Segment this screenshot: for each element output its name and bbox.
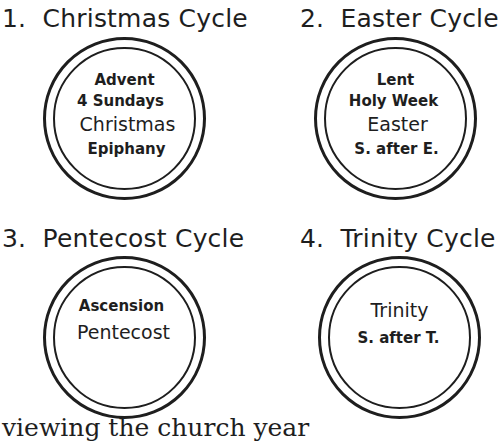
cycle-2-outer-circle: Lent Holy Week Easter S. after E. xyxy=(314,37,477,200)
cycle-1-item: Epiphany xyxy=(50,140,203,158)
cycle-4-number: 4. xyxy=(300,224,324,253)
cycle-1-outer-circle: Advent 4 Sundays Christmas Epiphany xyxy=(43,37,206,200)
cycle-1-item: Advent xyxy=(46,71,203,89)
cycle-2-name: Easter Cycle xyxy=(341,4,499,33)
cycle-1-number: 1. xyxy=(2,4,26,33)
cycle-3-outer-circle: Ascension Pentecost xyxy=(43,256,206,419)
cycle-3-name: Pentecost Cycle xyxy=(43,224,245,253)
cycle-3-item: Pentecost xyxy=(44,321,203,343)
cycle-3-item: Ascension xyxy=(40,297,203,315)
cycle-1-item: 4 Sundays xyxy=(38,92,203,110)
cycle-1-item: Christmas xyxy=(52,113,203,135)
cycle-4-name: Trinity Cycle xyxy=(341,224,496,253)
cycle-2-title: 2. Easter Cycle xyxy=(300,4,499,33)
cycle-1-name: Christmas Cycle xyxy=(43,4,248,33)
cycle-4-item: S. after T. xyxy=(319,329,478,347)
cycle-2-item: Lent xyxy=(317,71,474,89)
footer-text: viewing the church year xyxy=(2,413,309,442)
cycle-3-number: 3. xyxy=(2,224,26,253)
cycle-2-item: Easter xyxy=(321,113,474,135)
cycle-4-title: 4. Trinity Cycle xyxy=(300,224,496,253)
cycle-2-number: 2. xyxy=(300,4,324,33)
cycle-1-title: 1. Christmas Cycle xyxy=(2,4,248,33)
cycle-2-item: Holy Week xyxy=(313,92,474,110)
cycle-4-item: Trinity xyxy=(321,299,478,321)
cycle-4-outer-circle: Trinity S. after T. xyxy=(318,256,481,419)
cycle-2-item: S. after E. xyxy=(319,140,474,158)
cycle-3-title: 3. Pentecost Cycle xyxy=(2,224,244,253)
